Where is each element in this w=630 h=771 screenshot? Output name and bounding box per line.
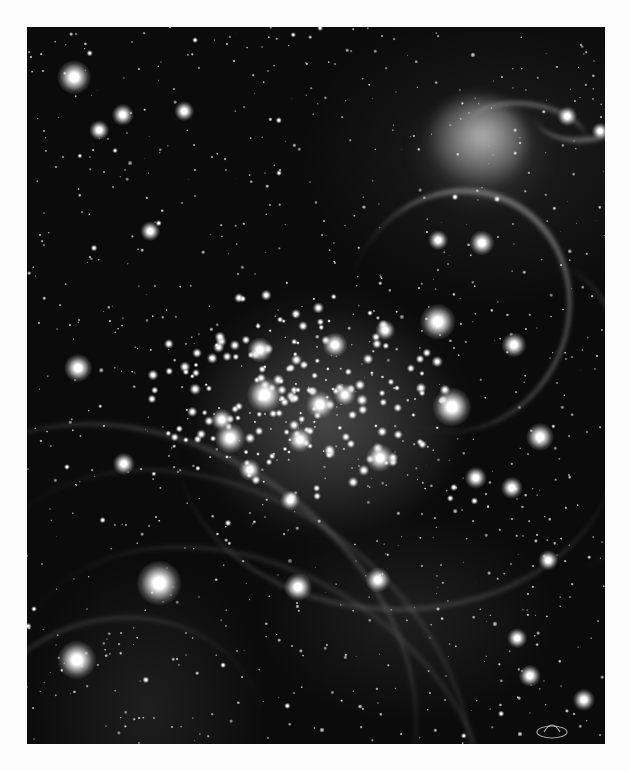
star	[365, 567, 390, 592]
star	[592, 123, 605, 140]
star	[375, 320, 395, 340]
star	[469, 230, 494, 255]
star	[501, 332, 526, 357]
star	[465, 467, 487, 489]
star	[287, 427, 312, 452]
star	[432, 387, 471, 426]
bright-stars	[27, 27, 605, 744]
observatory-logo-icon	[535, 719, 569, 741]
page	[0, 0, 630, 771]
astronomy-photo	[27, 27, 605, 744]
caption-top	[170, 0, 470, 4]
star	[112, 104, 134, 126]
star	[334, 384, 356, 406]
star	[526, 423, 554, 451]
star	[140, 221, 160, 241]
caption-bottom	[60, 748, 580, 760]
star	[57, 640, 96, 679]
star	[501, 477, 523, 499]
star	[322, 332, 347, 357]
star	[239, 459, 261, 481]
star	[284, 573, 312, 601]
star	[507, 628, 527, 648]
star	[573, 689, 595, 711]
star	[247, 377, 283, 413]
star	[113, 453, 135, 475]
star	[557, 106, 577, 126]
star	[428, 230, 448, 250]
star	[420, 304, 456, 340]
star	[64, 354, 92, 382]
star	[174, 101, 194, 121]
star	[137, 561, 182, 606]
star	[247, 337, 272, 362]
star	[280, 490, 300, 510]
star	[57, 60, 91, 94]
star	[519, 665, 541, 687]
star	[306, 391, 334, 419]
star	[89, 120, 109, 140]
star	[366, 444, 394, 472]
star	[538, 550, 558, 570]
